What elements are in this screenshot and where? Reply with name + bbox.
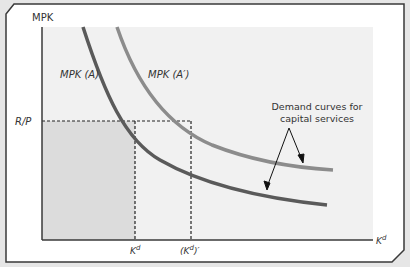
mpk-a-prime-label: MPK (A′) — [148, 69, 189, 80]
shaded-payment-region — [42, 121, 135, 240]
mpk-a-label: MPK (A) — [60, 69, 99, 80]
annotation-line-1: Demand curves for — [272, 101, 363, 112]
capital-demand-diagram: MPK R/P MPK (A) MPK (A′) Demand curves f… — [0, 0, 410, 267]
price-label: R/P — [15, 116, 32, 127]
y-axis-label: MPK — [32, 12, 54, 23]
annotation-line-2: capital services — [280, 113, 354, 124]
